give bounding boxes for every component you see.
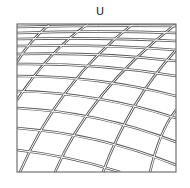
horizontal-grid-line xyxy=(17,91,176,118)
diagonal-grid-line-inner xyxy=(17,24,88,100)
horizontal-grid-line-inner xyxy=(17,91,176,118)
grid-lines xyxy=(17,24,176,172)
horizontal-grid-line-inner xyxy=(17,108,176,142)
horizontal-grid-line xyxy=(17,108,176,142)
horizontal-grid-line xyxy=(17,64,176,76)
diagonal-grid-line xyxy=(17,24,50,62)
diagonal-grid-line xyxy=(17,24,88,100)
curved-grid-mesh xyxy=(0,0,190,188)
